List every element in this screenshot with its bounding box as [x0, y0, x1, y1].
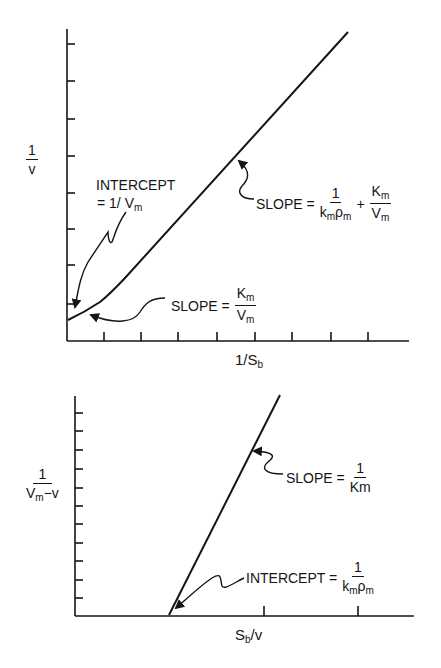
bottom-y-label-den-sub: m	[35, 492, 43, 503]
frac1-num: 1	[330, 186, 342, 203]
plus-sign: +	[356, 196, 364, 212]
bottom-intercept-prefix: INTERCEPT =	[246, 570, 337, 586]
frac1-den-k: k	[320, 204, 327, 220]
bottom-y-axis-label: 1 Vm−v	[26, 467, 59, 503]
slope-upper-prefix: SLOPE =	[256, 196, 315, 212]
intercept-arrow	[75, 212, 126, 307]
frac2-num-sub: m	[381, 190, 389, 201]
bottom-intercept-den-k-sub: m	[349, 585, 357, 596]
slope-upper-fraction-2: Km Vm	[370, 184, 392, 223]
frac2-den-sub: m	[381, 212, 389, 223]
intercept-note-line1: INTERCEPT	[96, 178, 175, 192]
frac-den-sub: m	[246, 314, 254, 325]
frac-num-sub: m	[246, 292, 254, 303]
frac-den: V	[237, 307, 246, 323]
slope-upper-arrow	[239, 161, 254, 199]
top-plot-curve	[68, 32, 348, 320]
intercept-value-sub: m	[134, 202, 142, 213]
bottom-x-ticks	[264, 606, 358, 616]
slope-upper-note: SLOPE = 1 kmρm + Km Vm	[256, 184, 391, 223]
bottom-slope-num: 1	[354, 461, 366, 478]
frac1-den-rho-sub: m	[343, 211, 351, 222]
bottom-intercept-num: 1	[352, 560, 364, 577]
bottom-slope-den: Km	[350, 478, 371, 494]
bottom-y-label-numerator: 1	[33, 467, 53, 484]
intercept-value: = 1/ V	[97, 195, 134, 211]
bottom-y-ticks	[75, 413, 83, 598]
slope-lower-fraction: Km Vm	[235, 286, 257, 325]
slope-lower-note: SLOPE = Km Vm	[171, 286, 256, 325]
top-x-ticks	[104, 332, 368, 341]
bottom-y-label-den-v: V	[26, 485, 35, 501]
bottom-slope-prefix: SLOPE =	[286, 470, 345, 486]
bottom-intercept-fraction: 1 kmρm	[342, 560, 374, 596]
frac1-den-k-sub: m	[327, 211, 335, 222]
bottom-slope-note: SLOPE = 1 Km	[286, 461, 371, 494]
bottom-slope-arrow	[254, 451, 283, 474]
bottom-x-label-rest: /v	[251, 626, 263, 643]
y-label-numerator: 1	[26, 143, 38, 160]
x-label-main: 1/S	[235, 351, 258, 368]
bottom-intercept-den-rho-sub: m	[365, 585, 373, 596]
top-y-ticks	[67, 44, 75, 304]
frac1-den-rho: ρ	[335, 204, 343, 220]
bottom-slope-fraction: 1 Km	[350, 461, 371, 494]
y-label-denominator: v	[28, 160, 35, 176]
bottom-x-label-main: S	[235, 626, 245, 643]
intercept-note-line2: = 1/ Vm	[97, 196, 142, 213]
diagram-canvas	[0, 0, 441, 668]
top-x-axis-label: 1/Sb	[235, 352, 263, 370]
bottom-x-axis-label: Sb/v	[235, 627, 262, 645]
frac2-num: K	[372, 183, 381, 199]
frac2-den: V	[372, 205, 381, 221]
bottom-intercept-note: INTERCEPT = 1 kmρm	[246, 560, 374, 596]
bottom-y-label-den-rest: −v	[44, 485, 59, 501]
frac-num: K	[237, 285, 246, 301]
x-label-sub: b	[258, 359, 264, 370]
top-y-axis-label: 1 v	[26, 143, 38, 176]
slope-upper-fraction-1: 1 kmρm	[320, 186, 352, 222]
slope-lower-prefix: SLOPE =	[171, 298, 230, 314]
